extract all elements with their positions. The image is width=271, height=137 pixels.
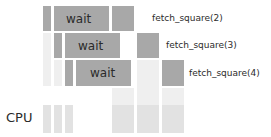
cpu-activity-block	[43, 105, 51, 133]
cpu-activity-block	[137, 105, 159, 133]
idle-gap-block	[112, 88, 134, 105]
coroutine-segment	[137, 33, 159, 58]
coroutine-call-label: fetch_square(2)	[152, 14, 223, 23]
idle-gap-block	[162, 88, 184, 105]
wait-label: wait	[78, 40, 103, 52]
coroutine-segment	[65, 60, 73, 86]
idle-gap-block	[43, 33, 51, 86]
cpu-activity-block	[112, 105, 134, 133]
wait-label: wait	[90, 67, 115, 79]
idle-gap-block	[54, 60, 62, 86]
coroutine-call-label: fetch_square(4)	[189, 69, 260, 78]
idle-gap-block	[137, 60, 159, 105]
cpu-activity-block	[162, 105, 184, 133]
timeline-diagram: waitfetch_square(2)waitfetch_square(3)wa…	[0, 0, 271, 137]
coroutine-segment	[162, 60, 184, 86]
cpu-activity-block	[54, 105, 62, 133]
cpu-axis-label: CPU	[6, 111, 32, 124]
wait-label: wait	[66, 13, 91, 25]
coroutine-segment	[112, 6, 134, 31]
coroutine-segment	[43, 6, 51, 31]
coroutine-segment	[54, 33, 62, 58]
cpu-activity-block	[65, 105, 73, 133]
coroutine-call-label: fetch_square(3)	[166, 41, 237, 50]
